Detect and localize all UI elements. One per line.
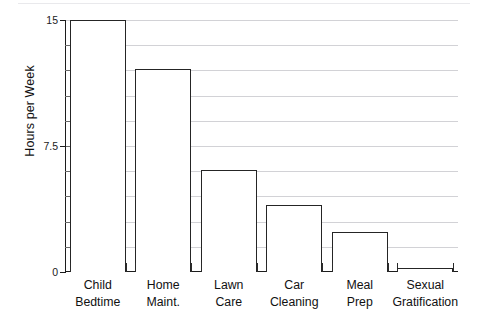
- bar: [397, 268, 453, 272]
- x-tick: [191, 263, 192, 272]
- bar: [266, 205, 322, 272]
- x-axis-label-group: ChildBedtimeHomeMaint.LawnCareCarCleanin…: [65, 277, 458, 319]
- x-tick: [70, 263, 71, 272]
- x-axis-label-line: Gratification: [381, 294, 471, 311]
- x-tick: [388, 263, 389, 272]
- plot-area: 07.515: [65, 20, 458, 272]
- y-tick-label: 15: [46, 14, 58, 26]
- x-axis-label: SexualGratification: [381, 277, 471, 310]
- bars-group: [65, 20, 458, 272]
- x-tick: [201, 263, 202, 272]
- x-tick: [332, 263, 333, 272]
- bar-chart: Hours per Week 07.515 ChildBedtimeHomeMa…: [0, 0, 478, 322]
- x-tick: [322, 263, 323, 272]
- x-tick: [257, 263, 258, 272]
- bar: [70, 20, 126, 272]
- x-tick: [266, 263, 267, 272]
- bar: [201, 170, 257, 272]
- x-tick: [126, 263, 127, 272]
- y-axis-title: Hours per Week: [19, 51, 41, 171]
- y-major-tick: [60, 272, 66, 273]
- x-axis-label-line: Sexual: [381, 277, 471, 294]
- bar: [332, 232, 388, 272]
- y-tick-label: 7.5: [43, 140, 58, 152]
- x-tick: [397, 263, 398, 272]
- scan-artifact-line: [18, 3, 470, 4]
- x-tick: [453, 263, 454, 272]
- bar: [135, 69, 191, 272]
- x-tick: [135, 263, 136, 272]
